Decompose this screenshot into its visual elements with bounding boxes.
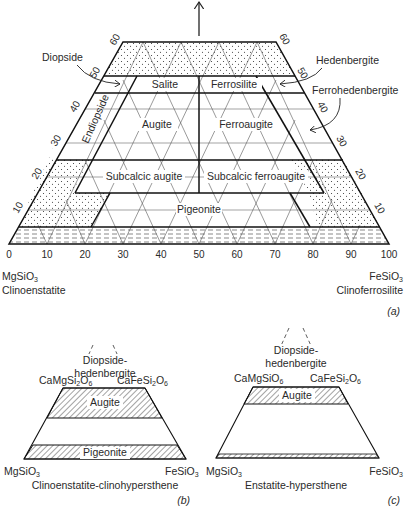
panel-c-bottom-left-formula: MgSiO3	[206, 465, 242, 478]
svg-text:60: 60	[277, 32, 292, 48]
label-salite: Salite	[152, 78, 178, 90]
svg-text:60: 60	[107, 31, 122, 47]
label-endiopside: Endiopside	[79, 92, 111, 144]
label-subcalcic-ferroaugite: Subcalcic ferroaugite	[207, 170, 305, 182]
svg-text:10: 10	[10, 199, 25, 215]
panel-a-quadrilateral: 10 20 30 40 50 60 10 20 30 40 50 60 0 10…	[2, 2, 403, 317]
panel-a-label: (a)	[387, 305, 400, 317]
panel-c-series-name: Enstatite-hypersthene	[245, 479, 347, 491]
label-ferroaugite: Ferroaugite	[219, 118, 273, 130]
svg-text:20: 20	[353, 167, 368, 183]
orthopyroxene-dashed-band	[9, 227, 389, 244]
left-endmember-name: Clinoenstatite	[2, 284, 66, 296]
svg-text:30: 30	[334, 134, 349, 150]
callout-diopside: Diopside	[42, 51, 83, 63]
svg-text:100: 100	[381, 249, 398, 260]
panel-b-bottom-left-formula: MgSiO3	[4, 465, 40, 478]
panel-c-top-label-line1: Diopside-	[274, 344, 319, 356]
svg-text:40: 40	[315, 100, 330, 116]
field-labels: Salite Ferrosilite Augite Ferroaugite Su…	[103, 78, 308, 216]
panel-b-augite-label: Augite	[90, 396, 120, 408]
svg-text:50: 50	[87, 64, 102, 80]
panel-c-bottom-band	[216, 454, 379, 458]
callout-ferrohedenbergite: Ferrohedenbergite	[312, 84, 399, 96]
svg-text:30: 30	[48, 132, 63, 148]
panel-b-pigeonite-label: Pigeonite	[83, 446, 127, 458]
panel-c-top-label-line2: hedenbergite	[265, 357, 326, 369]
svg-text:70: 70	[269, 249, 281, 260]
svg-text:0: 0	[6, 249, 12, 260]
panel-b-bottom-right-formula: FeSiO3	[165, 465, 199, 478]
svg-text:40: 40	[67, 98, 82, 114]
svg-text:10: 10	[41, 249, 53, 260]
panel-c-orthopyroxene: Diopside- hedenbergite CaMgSiO6 CaFeSi2O…	[206, 328, 403, 506]
right-endmember-name: Clinoferrosilite	[336, 284, 403, 296]
svg-text:50: 50	[193, 249, 205, 260]
panel-c-label: (c)	[388, 494, 400, 506]
panel-b-series-name: Clinoenstatite-clinohypersthene	[32, 479, 179, 491]
svg-text:40: 40	[155, 249, 167, 260]
panel-c-augite-label: Augite	[282, 389, 312, 401]
pyroxene-quadrilateral-figure: 10 20 30 40 50 60 10 20 30 40 50 60 0 10…	[0, 0, 407, 509]
right-endmember-formula: FeSiO3	[369, 270, 403, 283]
svg-text:10: 10	[372, 201, 387, 217]
svg-text:90: 90	[345, 249, 357, 260]
panel-b-top-label-line1: Diopside-	[83, 354, 128, 366]
svg-text:20: 20	[79, 249, 91, 260]
label-pigeonite: Pigeonite	[177, 203, 221, 215]
base-axis-ticks: 0 10 20 30 40 50 60 70 80 90 100	[6, 249, 398, 260]
label-subcalcic-augite: Subcalcic augite	[106, 170, 183, 182]
label-augite: Augite	[142, 118, 172, 130]
svg-text:30: 30	[117, 249, 129, 260]
panel-b-top-left-formula: CaMgSi2O6	[39, 374, 92, 387]
svg-text:80: 80	[307, 249, 319, 260]
callout-hedenbergite: Hedenbergite	[316, 54, 379, 66]
panel-c-bottom-right-formula: FeSiO3	[369, 465, 403, 478]
panel-b-clinopyroxene: Diopside- hedenbergite CaMgSi2O6 CaFeSi2…	[4, 345, 199, 506]
diopside-hedenbergite-dotted-band	[104, 42, 295, 76]
panel-b-label: (b)	[177, 494, 190, 506]
panel-c-top-right-formula: CaFeSi2O6	[310, 372, 361, 385]
svg-text:60: 60	[231, 249, 243, 260]
panel-b-top-right-formula: CaFeSi2O6	[117, 374, 168, 387]
left-endmember-formula: MgSiO3	[2, 270, 38, 283]
panel-c-top-left-formula: CaMgSiO6	[234, 372, 284, 385]
label-ferrosilite: Ferrosilite	[211, 78, 257, 90]
